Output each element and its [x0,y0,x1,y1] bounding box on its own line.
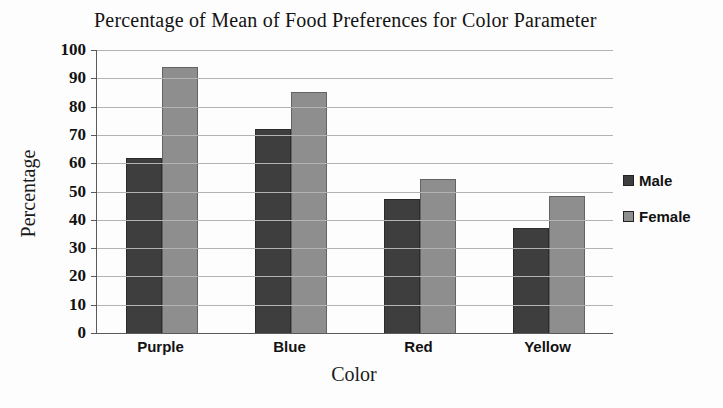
y-tick-label-0: 0 [46,323,86,343]
gridline-20 [97,276,613,277]
legend: Male Female [623,172,691,225]
y-tick-label-60: 60 [46,153,86,173]
gridline-60 [97,163,613,164]
x-category-labels: PurpleBlueRedYellow [96,338,612,355]
chart-figure: Percentage of Mean of Food Preferences f… [0,0,723,408]
gridline-30 [97,248,613,249]
bar-female-yellow [549,196,585,333]
bar-male-purple [126,158,162,333]
gridline-80 [97,107,613,108]
legend-item-male: Male [623,172,691,189]
y-axis-title: Percentage [17,139,40,249]
gridline-100 [97,50,613,51]
female-series-swatch-icon [623,211,634,222]
y-tick-label-90: 90 [46,68,86,88]
x-category-label-blue: Blue [225,338,354,355]
x-axis-title: Color [96,363,612,386]
y-axis-tick [91,163,97,164]
legend-label-female: Female [639,208,691,225]
x-category-label-purple: Purple [96,338,225,355]
bar-male-yellow [513,228,549,333]
y-axis-tick [91,135,97,136]
y-axis-tick [91,305,97,306]
gridline-40 [97,220,613,221]
gridline-70 [97,135,613,136]
y-axis-tick [91,276,97,277]
bar-female-red [420,179,456,333]
x-category-label-red: Red [354,338,483,355]
legend-label-male: Male [639,172,672,189]
legend-item-female: Female [623,208,691,225]
y-axis-tick [91,333,97,334]
bar-male-red [384,199,420,333]
y-axis-tick [91,78,97,79]
male-series-swatch-icon [623,175,634,186]
y-tick-label-10: 10 [46,295,86,315]
plot-area: 0102030405060708090100 [96,50,613,334]
bar-female-blue [291,92,327,333]
gridline-50 [97,192,613,193]
chart-title: Percentage of Mean of Food Preferences f… [94,9,654,32]
y-tick-label-80: 80 [46,97,86,117]
y-axis-tick [91,192,97,193]
gridline-10 [97,305,613,306]
y-axis-tick [91,220,97,221]
y-tick-label-40: 40 [46,210,86,230]
y-axis-tick [91,50,97,51]
y-axis-tick [91,248,97,249]
gridline-90 [97,78,613,79]
x-category-label-yellow: Yellow [483,338,612,355]
bar-male-blue [255,129,291,333]
y-axis-tick [91,107,97,108]
y-tick-label-50: 50 [46,182,86,202]
y-tick-label-70: 70 [46,125,86,145]
y-tick-label-20: 20 [46,266,86,286]
y-tick-label-100: 100 [46,40,86,60]
y-tick-label-30: 30 [46,238,86,258]
